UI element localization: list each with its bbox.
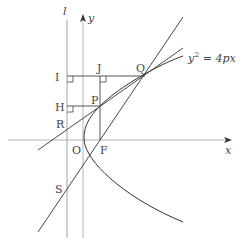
label-y: y [87, 12, 95, 25]
label-P: P [91, 94, 99, 107]
label-x: x [225, 144, 232, 157]
label-I: I [55, 71, 59, 84]
right-angle-mark-J [100, 76, 106, 82]
label-H: H [55, 101, 65, 114]
label-F: F [100, 144, 108, 157]
label-l: l [63, 5, 67, 18]
parabola-diagram: l y x I J Q H P R O F S y2 = 4px [0, 0, 243, 244]
line-RPQ [38, 48, 183, 150]
label-O: O [72, 144, 81, 157]
label-R: R [56, 118, 65, 131]
equation-label: y2 = 4px [187, 50, 237, 65]
label-Q: Q [136, 62, 145, 75]
right-angle-mark-I [67, 76, 73, 82]
label-S: S [55, 183, 63, 196]
parabola-curve [84, 56, 183, 222]
label-J: J [96, 62, 101, 75]
right-angle-mark-H [67, 106, 73, 112]
